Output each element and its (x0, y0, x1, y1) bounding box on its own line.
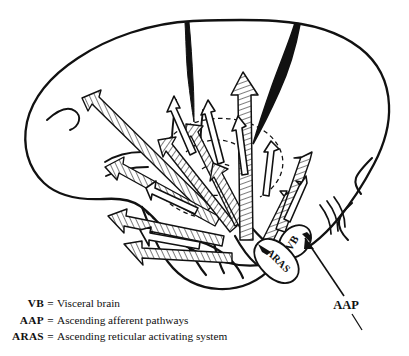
legend-abbr: ARAS (12, 329, 44, 346)
legend-equals: = (44, 313, 57, 330)
legend-description: Ascending reticular activating system (57, 329, 227, 346)
legend-description: Ascending afferent pathways (57, 313, 227, 330)
legend-row: AAP = Ascending afferent pathways (12, 313, 227, 330)
legend-row: ARAS = Ascending reticular activating sy… (12, 329, 227, 346)
legend-abbr: AAP (12, 313, 44, 330)
occipital-notch (339, 158, 372, 240)
legend-abbr: VB (12, 296, 44, 313)
sulcus-central (185, 22, 194, 122)
legend-description: Visceral brain (57, 296, 227, 313)
sulcus-parieto-occipital (253, 23, 300, 144)
legend: VB = Visceral brain AAP = Ascending affe… (0, 296, 409, 346)
legend-table: VB = Visceral brain AAP = Ascending affe… (12, 296, 227, 346)
legend-equals: = (44, 296, 57, 313)
legend-equals: = (44, 329, 57, 346)
brain-outline (25, 20, 389, 266)
legend-row: VB = Visceral brain (12, 296, 227, 313)
